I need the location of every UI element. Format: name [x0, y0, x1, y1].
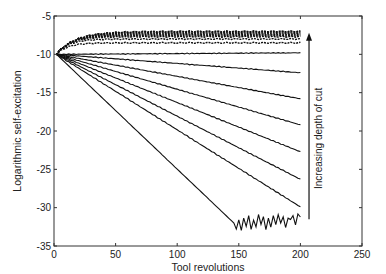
y-tick-label: -35: [37, 241, 52, 252]
y-axis-label: Logarithmic self-excitation: [11, 70, 23, 192]
annotation-text: Increasing depth of cut: [313, 88, 324, 189]
x-tick-label: 150: [230, 249, 247, 260]
x-tick-label: 0: [51, 249, 57, 260]
y-tick-label: -20: [37, 126, 52, 137]
y-tick-label: -25: [37, 164, 52, 175]
x-tick-label: 200: [292, 249, 309, 260]
y-tick-label: -10: [37, 49, 52, 60]
x-axis-label: Tool revolutions: [172, 261, 245, 273]
x-tick-label: 50: [110, 249, 122, 260]
x-tick-label: 100: [169, 249, 186, 260]
y-tick-label: -15: [37, 87, 52, 98]
line-chart: 050100150200250 -5-10-15-20-25-30-35 Too…: [0, 0, 386, 274]
x-tick-label: 250: [354, 249, 371, 260]
y-tick-label: -30: [37, 202, 52, 213]
y-tick-label: -5: [42, 11, 51, 22]
